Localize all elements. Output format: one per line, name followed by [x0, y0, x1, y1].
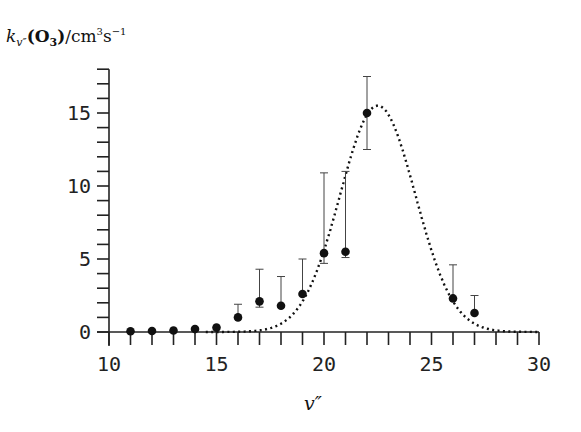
- y-tick-label: 15: [67, 101, 91, 125]
- x-axis-label: v″: [304, 392, 322, 414]
- data-point: [277, 277, 286, 311]
- data-point: [255, 269, 264, 307]
- marker: [255, 297, 264, 306]
- fit-curve: [206, 106, 538, 332]
- data-point: [363, 77, 372, 150]
- marker: [298, 290, 307, 299]
- marker: [363, 109, 372, 118]
- fit-line: [206, 106, 538, 332]
- data-point: [191, 325, 200, 334]
- marker: [212, 323, 221, 332]
- x-tick-label: 15: [204, 352, 228, 376]
- plot-area: 0510151015202530: [0, 0, 581, 432]
- marker: [341, 247, 350, 256]
- axes: 0510151015202530: [67, 69, 551, 376]
- x-tick-label: 30: [527, 352, 551, 376]
- data-point: [298, 259, 307, 298]
- data-point: [341, 171, 350, 257]
- data-point: [169, 326, 178, 335]
- marker: [148, 327, 157, 336]
- data-point: [234, 304, 243, 321]
- y-tick-label: 5: [79, 247, 91, 271]
- data-point: [320, 173, 329, 264]
- marker: [234, 313, 243, 322]
- data-point: [126, 327, 135, 336]
- marker: [191, 325, 200, 334]
- x-tick-label: 25: [419, 352, 443, 376]
- x-tick-label: 10: [97, 352, 121, 376]
- x-tick-label: 20: [312, 352, 336, 376]
- data-point: [449, 265, 458, 303]
- marker: [277, 301, 286, 310]
- marker: [449, 294, 458, 303]
- marker: [169, 326, 178, 335]
- data-point: [470, 296, 479, 318]
- data-points: [126, 77, 479, 336]
- marker: [320, 249, 329, 258]
- marker: [470, 309, 479, 318]
- data-point: [212, 323, 221, 332]
- y-tick-label: 10: [67, 174, 91, 198]
- data-point: [148, 327, 157, 336]
- y-tick-label: 0: [79, 320, 91, 344]
- marker: [126, 327, 135, 336]
